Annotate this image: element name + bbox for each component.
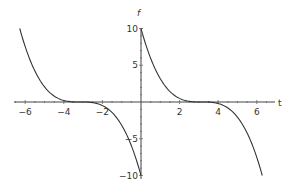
x-tick-label: 4 <box>215 107 221 117</box>
x-tick-label: 2 <box>177 107 183 117</box>
y-axis-label: f <box>137 8 142 18</box>
y-tick-label: 5 <box>132 60 138 70</box>
x-tick-label: −6 <box>19 107 33 117</box>
plot-area: −6−4−2246 −10−5510 t f <box>0 0 295 193</box>
chart-svg: −6−4−2246 −10−5510 t f <box>0 0 295 193</box>
x-tick-label: −4 <box>57 107 71 117</box>
y-tick-label: 10 <box>127 24 139 34</box>
y-tick-label: −10 <box>119 171 138 181</box>
x-axis-label: t <box>278 98 282 108</box>
x-tick-label: 6 <box>254 107 260 117</box>
